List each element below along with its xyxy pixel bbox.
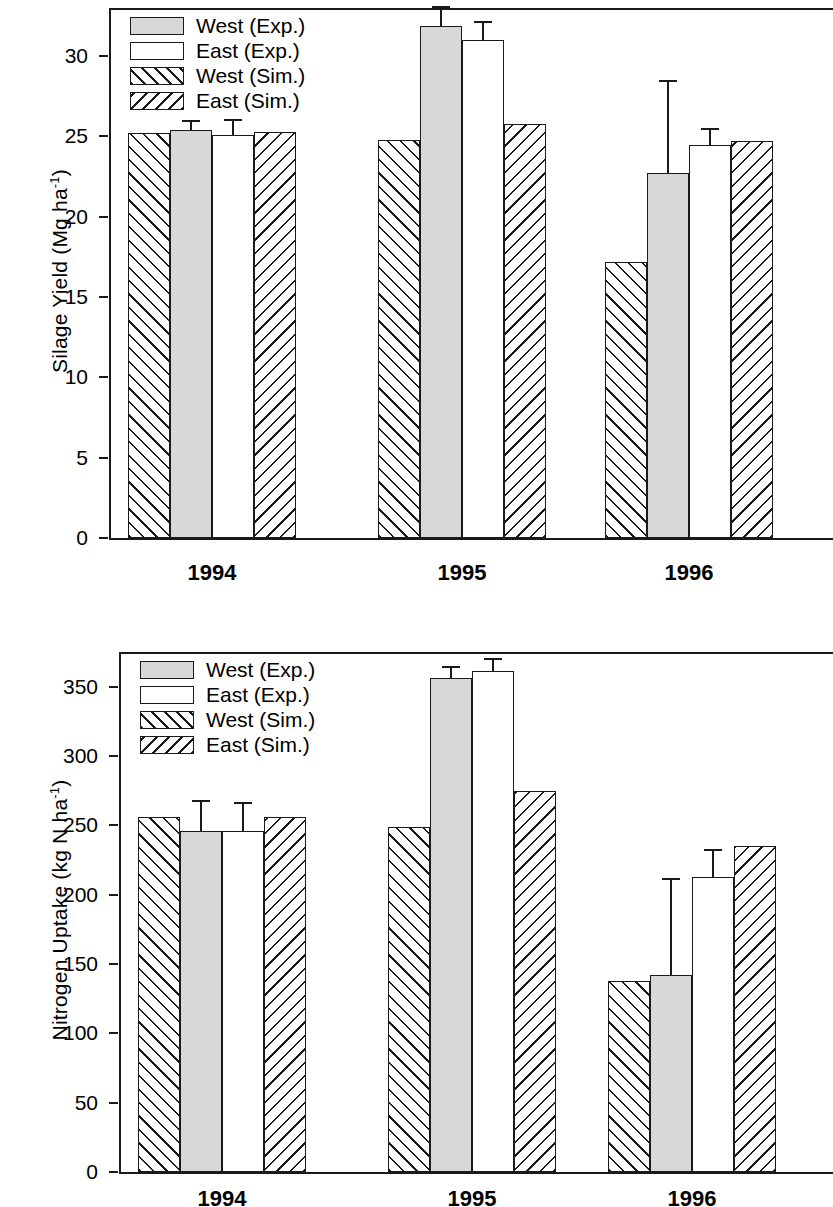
y-axis-title-tail: ) [48,169,71,176]
legend-label: West (Exp.) [196,15,305,36]
error-bar-cap [662,878,680,880]
bar [692,877,734,1172]
error-bar [420,6,462,25]
y-axis-tick-label: 0 [24,1161,98,1182]
error-bar-cap [484,658,502,660]
error-bar [650,878,692,975]
error-bar-cap [659,80,677,82]
nitrogen-uptake-chart-panel: Nitrogen Uptake (kg N ha-1) 050100150200… [0,620,833,1207]
x-axis-label-1995: 1995 [348,1186,596,1207]
y-axis-tick-mark [99,135,108,137]
legend-swatch-sim-west [130,67,184,85]
legend-swatch-exp-east [140,686,194,704]
y-axis-tick-label: 30 [14,45,88,66]
bar [689,145,731,538]
plot-baseline [119,1172,833,1174]
y-axis-tick-mark [109,1032,118,1034]
bar [420,26,462,538]
y-axis-title-tail: ) [48,780,71,787]
y-axis-title-exponent: -1 [47,787,62,799]
y-axis-tick-mark [99,216,108,218]
y-axis-tick-label: 300 [24,745,98,766]
legend-swatch-sim-west [140,711,194,729]
x-axis-label-1996: 1996 [565,560,813,586]
legend-label: East (Exp.) [196,40,300,61]
legend-label: West (Sim.) [206,709,315,730]
legend-item: West (Exp.) [140,658,315,681]
bar [472,671,514,1172]
y-axis-tick-label: 350 [24,676,98,697]
bar [647,173,689,538]
bar [462,40,504,538]
error-bar-cap [182,120,200,122]
bar [734,846,776,1172]
y-axis-tick-mark [109,1102,118,1104]
bar [388,827,430,1172]
error-bar-stem [667,80,669,173]
bar [608,981,650,1172]
error-bar-stem [242,802,244,831]
error-bar-cap [704,849,722,851]
bar [378,140,420,538]
silage-yield-chart-panel: Silage Yield (Mg ha-1) 051015202530 West… [0,0,833,620]
y-axis-tick-mark [109,963,118,965]
bar [254,132,296,538]
y-axis-tick-label: 10 [14,366,88,387]
y-axis-tick-mark [109,686,118,688]
plot-frame-top-border [109,8,833,10]
legend-swatch-exp-west [140,661,194,679]
error-bar [170,120,212,130]
error-bar-stem [709,128,711,144]
bar [180,831,222,1172]
error-bar-stem [440,6,442,25]
plot-frame-top-border [119,652,833,654]
y-axis-tick-mark [99,537,108,539]
legend-swatch-exp-east [130,42,184,60]
bar [222,831,264,1172]
x-axis-label-1995: 1995 [338,560,586,586]
error-bar-cap [234,802,252,804]
bar [212,135,254,538]
bar [514,791,556,1172]
error-bar-stem [492,658,494,672]
y-axis-tick-mark [99,376,108,378]
y-axis-tick-label: 20 [14,206,88,227]
error-bar-stem [670,878,672,975]
y-axis-tick-label: 150 [24,953,98,974]
bar [650,975,692,1172]
y-axis-tick-mark [109,1171,118,1173]
legend-swatch-sim-east [140,736,194,754]
x-axis-label-1994: 1994 [88,560,336,586]
error-bar [180,800,222,831]
y-axis-tick-mark [109,824,118,826]
legend-item: East (Sim.) [130,89,305,112]
bar [138,817,180,1172]
error-bar [647,80,689,173]
y-axis-title-exponent: -1 [47,176,62,188]
error-bar-cap [442,666,460,668]
error-bar-cap [474,21,492,23]
legend-swatch-exp-west [130,17,184,35]
y-axis-tick-mark [99,55,108,57]
bar [170,130,212,538]
error-bar-cap [224,119,242,121]
bar [128,133,170,538]
error-bar-stem [232,119,234,135]
y-axis-tick-label: 5 [14,447,88,468]
error-bar-cap [192,800,210,802]
legend-nitrogen-uptake: West (Exp.)East (Exp.)West (Sim.)East (S… [140,658,315,758]
bar [264,817,306,1172]
legend-silage-yield: West (Exp.)East (Exp.)West (Sim.)East (S… [130,14,305,114]
y-axis-tick-label: 25 [14,125,88,146]
y-axis-tick-mark [99,457,108,459]
error-bar [430,666,472,678]
y-axis-tick-label: 200 [24,884,98,905]
legend-label: East (Exp.) [206,684,310,705]
legend-item: East (Exp.) [130,39,305,62]
legend-label: East (Sim.) [206,734,310,755]
error-bar [212,119,254,135]
y-axis-tick-mark [109,755,118,757]
error-bar-stem [712,849,714,877]
error-bar-cap [432,6,450,8]
bar [504,124,546,538]
